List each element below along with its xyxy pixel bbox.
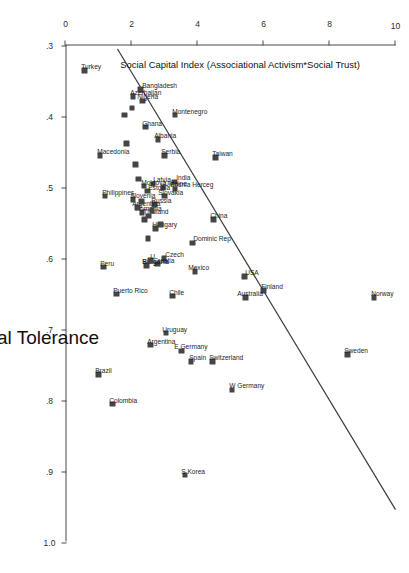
data-point <box>161 152 167 158</box>
y-tick <box>196 40 197 45</box>
data-point <box>192 268 198 274</box>
data-point <box>344 351 350 357</box>
data-point <box>134 204 140 210</box>
x-tick <box>61 258 66 259</box>
x-tick-label: .6 <box>45 253 52 263</box>
data-point <box>171 179 177 185</box>
figure-canvas: NorwaySwedenFinlandUSAAustraliaW Germany… <box>0 0 409 573</box>
data-point <box>210 216 216 222</box>
data-point <box>138 198 144 204</box>
x-tick-label: .5 <box>45 182 52 192</box>
y-axis-title: Social Capital Index (Associational Acti… <box>75 59 405 70</box>
data-point <box>97 152 103 158</box>
data-point <box>155 136 161 142</box>
y-tick <box>64 40 65 45</box>
data-point <box>188 358 194 364</box>
data-point <box>145 235 151 241</box>
x-tick-label: .3 <box>45 40 52 50</box>
data-point <box>229 387 235 393</box>
data-point <box>172 186 178 192</box>
data-point <box>109 401 115 407</box>
x-tick <box>61 542 66 543</box>
x-tick-label: 1.0 <box>43 537 55 547</box>
data-point <box>161 255 167 261</box>
data-point <box>182 472 188 478</box>
y-tick-label: 6 <box>261 18 266 28</box>
y-tick <box>262 40 263 45</box>
data-point <box>161 193 167 199</box>
x-tick-label: .9 <box>45 466 52 476</box>
data-point <box>154 261 160 267</box>
data-point <box>260 287 266 293</box>
y-tick-label: 0 <box>63 18 68 28</box>
data-point <box>147 257 153 263</box>
axes-frame: NorwaySwedenFinlandUSAAustraliaW Germany… <box>65 44 395 541</box>
x-tick-label: .4 <box>45 111 52 121</box>
data-point <box>212 154 218 160</box>
data-point <box>113 291 119 297</box>
data-point <box>142 124 148 130</box>
y-tick-label: 8 <box>327 18 332 28</box>
data-point <box>144 188 150 194</box>
x-tick <box>61 400 66 401</box>
y-tick-label: 2 <box>129 18 134 28</box>
data-point <box>121 112 127 118</box>
data-point <box>189 240 195 246</box>
plot-wrapper: NorwaySwedenFinlandUSAAustraliaW Germany… <box>0 0 409 573</box>
x-tick <box>61 471 66 472</box>
data-point <box>157 221 163 227</box>
data-point <box>139 98 145 104</box>
data-point <box>209 358 215 364</box>
data-point <box>130 196 136 202</box>
y-tick <box>394 40 395 45</box>
data-point <box>123 140 129 146</box>
data-point <box>151 201 157 207</box>
data-point <box>102 193 108 199</box>
data-point <box>371 294 377 300</box>
x-axis-title: Social Tolerance <box>0 327 278 349</box>
data-point <box>132 161 138 167</box>
data-point <box>150 181 156 187</box>
y-tick <box>328 40 329 45</box>
y-tick-label: 4 <box>195 18 200 28</box>
x-tick <box>61 187 66 188</box>
data-point <box>135 176 141 182</box>
plot-area: NorwaySwedenFinlandUSAAustraliaW Germany… <box>66 45 395 541</box>
data-point <box>141 216 147 222</box>
data-point <box>160 184 166 190</box>
y-tick <box>130 40 131 45</box>
y-tick-label: 10 <box>390 21 399 31</box>
data-point <box>100 264 106 270</box>
data-point <box>169 293 175 299</box>
data-point <box>137 86 143 92</box>
x-tick-label: .8 <box>45 395 52 405</box>
data-point <box>149 207 155 213</box>
data-point <box>95 371 101 377</box>
data-point <box>141 183 147 189</box>
data-point <box>172 112 178 118</box>
data-point <box>152 225 158 231</box>
rotated-figure-container: NorwaySwedenFinlandUSAAustraliaW Germany… <box>0 0 409 573</box>
x-tick <box>61 116 66 117</box>
data-point <box>130 93 136 99</box>
data-point <box>241 273 247 279</box>
data-point <box>242 294 248 300</box>
data-point <box>129 105 135 111</box>
